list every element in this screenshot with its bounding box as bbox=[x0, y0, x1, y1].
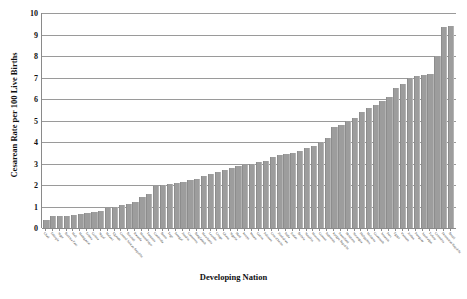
bar[interactable] bbox=[84, 213, 90, 228]
bar-slot bbox=[57, 13, 64, 228]
y-tick-label: 1 bbox=[18, 202, 38, 211]
bar[interactable] bbox=[414, 76, 420, 228]
bar[interactable] bbox=[407, 78, 413, 229]
bar-slot bbox=[180, 13, 187, 228]
bar[interactable] bbox=[352, 118, 358, 228]
bar[interactable] bbox=[421, 75, 427, 228]
x-label-slot: Mali bbox=[69, 231, 76, 271]
bar-slot bbox=[352, 13, 359, 228]
bar[interactable] bbox=[373, 105, 379, 228]
bar-slot bbox=[201, 13, 208, 228]
bar[interactable] bbox=[427, 74, 433, 228]
bar[interactable] bbox=[105, 208, 111, 228]
bar[interactable] bbox=[91, 212, 97, 228]
bar-slot bbox=[324, 13, 331, 228]
bar[interactable] bbox=[393, 88, 399, 228]
bar[interactable] bbox=[441, 27, 447, 228]
bar-slot bbox=[221, 13, 228, 228]
bar[interactable] bbox=[242, 165, 248, 228]
x-label-slot: Burundi bbox=[124, 231, 131, 271]
bar-slot bbox=[43, 13, 50, 228]
bar[interactable] bbox=[160, 185, 166, 228]
bar-slot bbox=[420, 13, 427, 228]
x-label-slot: Nicaragua bbox=[351, 231, 358, 271]
bar[interactable] bbox=[78, 214, 84, 228]
bar[interactable] bbox=[277, 155, 283, 228]
bar[interactable] bbox=[235, 166, 241, 228]
bar[interactable] bbox=[126, 204, 132, 228]
x-label-slot: Zambia bbox=[179, 231, 186, 271]
bar[interactable] bbox=[187, 180, 193, 228]
bar[interactable] bbox=[43, 220, 49, 228]
bar[interactable] bbox=[270, 157, 276, 228]
bar[interactable] bbox=[434, 56, 440, 228]
x-label-slot: Malawi bbox=[104, 231, 111, 271]
x-label-slot: Bolivia bbox=[296, 231, 303, 271]
bar[interactable] bbox=[194, 179, 200, 228]
bar[interactable] bbox=[304, 148, 310, 228]
plot-area bbox=[41, 13, 456, 228]
bar[interactable] bbox=[180, 182, 186, 228]
bar[interactable] bbox=[338, 125, 344, 228]
x-label-slot: Cameroon bbox=[186, 231, 193, 271]
bar[interactable] bbox=[325, 138, 331, 228]
bar-slot bbox=[139, 13, 146, 228]
bar[interactable] bbox=[263, 161, 269, 228]
bar[interactable] bbox=[167, 184, 173, 228]
bar[interactable] bbox=[359, 112, 365, 228]
x-label-slot: Guinea bbox=[90, 231, 97, 271]
x-label-slot: Pakistan bbox=[262, 231, 269, 271]
bar[interactable] bbox=[174, 183, 180, 228]
bar[interactable] bbox=[379, 101, 385, 228]
bar[interactable] bbox=[290, 153, 296, 228]
bar[interactable] bbox=[386, 97, 392, 228]
bar[interactable] bbox=[448, 26, 454, 228]
x-axis-category-labels: ChadEthiopiaNigerBurkina FasoMaliMadagas… bbox=[41, 231, 455, 271]
bar[interactable] bbox=[112, 207, 118, 229]
bar[interactable] bbox=[297, 151, 303, 228]
x-label-slot: Gabon bbox=[255, 231, 262, 271]
bar-slot bbox=[64, 13, 71, 228]
bar[interactable] bbox=[64, 216, 70, 228]
bar[interactable] bbox=[146, 194, 152, 228]
x-label-slot: Madagascar bbox=[76, 231, 83, 271]
bar[interactable] bbox=[50, 216, 56, 228]
y-tick-label: 3 bbox=[18, 159, 38, 168]
bar[interactable] bbox=[71, 215, 77, 228]
bar[interactable] bbox=[208, 174, 214, 228]
bar-slot bbox=[166, 13, 173, 228]
bar[interactable] bbox=[153, 186, 159, 228]
bar[interactable] bbox=[283, 154, 289, 228]
bar[interactable] bbox=[366, 108, 372, 228]
bar[interactable] bbox=[215, 172, 221, 228]
x-label-slot: Sudan bbox=[289, 231, 296, 271]
bar-slot bbox=[338, 13, 345, 228]
y-tick-label: 8 bbox=[18, 52, 38, 61]
bar[interactable] bbox=[132, 202, 138, 228]
bar-slot bbox=[359, 13, 366, 228]
bar[interactable] bbox=[256, 162, 262, 228]
bar-slot bbox=[105, 13, 112, 228]
bar-slot bbox=[365, 13, 372, 228]
bar[interactable] bbox=[98, 211, 104, 228]
x-label-slot: Rwanda bbox=[131, 231, 138, 271]
y-tick-label: 10 bbox=[18, 9, 38, 18]
x-label-slot: Burkina Faso bbox=[63, 231, 70, 271]
bar[interactable] bbox=[400, 84, 406, 228]
bar-slot bbox=[242, 13, 249, 228]
bar[interactable] bbox=[57, 216, 63, 228]
bar[interactable] bbox=[222, 170, 228, 228]
bar[interactable] bbox=[249, 164, 255, 229]
bar[interactable] bbox=[318, 142, 324, 228]
bar-slot bbox=[434, 13, 441, 228]
bar[interactable] bbox=[345, 121, 351, 229]
bar-slot bbox=[228, 13, 235, 228]
bar-slot bbox=[160, 13, 167, 228]
bar[interactable] bbox=[331, 127, 337, 228]
bar[interactable] bbox=[119, 205, 125, 228]
bar[interactable] bbox=[229, 168, 235, 228]
bar[interactable] bbox=[311, 146, 317, 228]
x-label-slot: Central African Republic bbox=[117, 231, 124, 271]
bar[interactable] bbox=[139, 197, 145, 228]
bar[interactable] bbox=[201, 176, 207, 228]
